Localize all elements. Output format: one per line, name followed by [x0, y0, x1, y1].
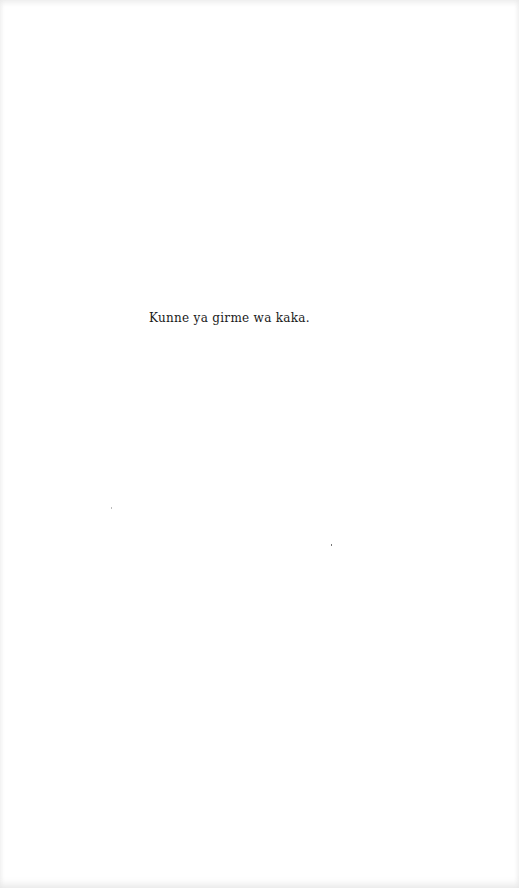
scanned-page: Kunne ya girme wa kaka. — [0, 0, 519, 888]
scan-speck — [331, 544, 332, 546]
scan-speck — [111, 507, 112, 509]
page-text-line: Kunne ya girme wa kaka. — [149, 311, 310, 325]
